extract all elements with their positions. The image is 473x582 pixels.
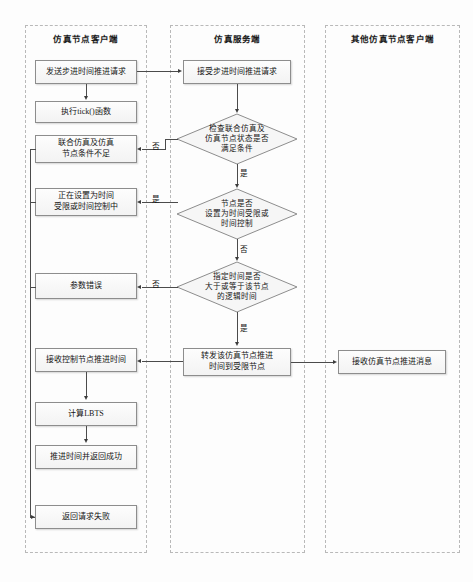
edge-d2-d3: [237, 239, 238, 258]
node-send-step-request[interactable]: 发送步进时间推进请求: [35, 60, 137, 84]
edge-d1-no-arrowhead: [137, 147, 141, 151]
edge-d2-yes-arrowhead: [137, 200, 141, 204]
edge-collector-trunk: [30, 149, 31, 517]
node-forward-advance-to-constrained-line2: 时间到受限节点: [209, 362, 265, 373]
edge-n6-n7: [86, 372, 87, 397]
edge-s1-d1-arrowhead: [235, 109, 239, 113]
edge-d3-no-seg: [142, 287, 178, 288]
edge-d2-yes-seg: [142, 202, 178, 203]
edge-label-d1-no: 否: [152, 140, 160, 151]
edge-d3-no-arrowhead: [137, 285, 141, 289]
edge-label-d3-yes: 是: [240, 322, 248, 333]
edge-s2-o1: [291, 362, 333, 363]
lane-title-client: 仿真节点客户端: [25, 32, 147, 44]
edge-s2-n6-arrowhead: [137, 359, 141, 363]
decision-time-ge-logical-time-shape: [177, 262, 297, 312]
lane-other-client: [325, 25, 460, 553]
node-forward-advance-to-constrained-line1: 转发该仿真节点推进: [201, 351, 273, 362]
node-forward-advance-to-constrained[interactable]: 转发该仿真节点推进 时间到受限节点: [183, 348, 291, 376]
node-receive-control-node-time[interactable]: 接收控制节点推进时间: [35, 348, 137, 372]
edge-collector-to-n9-arrowhead: [31, 515, 35, 519]
edge-n7-n8-arrowhead: [84, 439, 88, 443]
node-compute-lbts[interactable]: 计算LBTS: [35, 402, 137, 426]
node-setting-time-regulating-line1: 正在设置为时间: [58, 191, 114, 202]
edge-d3-s2-arrowhead: [235, 342, 239, 346]
node-receive-advance-message[interactable]: 接收仿真节点推进消息: [338, 350, 446, 374]
edge-n1-s1: [137, 71, 178, 72]
edge-s1-d1: [237, 84, 238, 110]
node-setting-time-regulating-line2: 受限或时间控制中: [54, 202, 118, 213]
node-exec-tick[interactable]: 执行tick()函数: [35, 101, 137, 123]
edge-label-d2-yes: 是: [152, 193, 160, 204]
edge-n1-s1-arrowhead: [178, 69, 182, 73]
edge-d1-d2-arrowhead: [235, 184, 239, 188]
edge-n7-n8: [86, 426, 87, 440]
node-condition-insufficient-line2: 节点条件不足: [62, 149, 110, 160]
edge-n1-n2-arrowhead: [84, 96, 88, 100]
edge-n6-n7-arrowhead: [84, 396, 88, 400]
node-condition-insufficient[interactable]: 联合仿真及仿真 节点条件不足: [35, 135, 137, 163]
node-param-error[interactable]: 参数错误: [35, 273, 137, 299]
decision-node-time-regulating[interactable]: 节点是否 设置为时间受限或 时间控制: [177, 189, 297, 239]
node-return-request-failed[interactable]: 返回请求失败: [35, 505, 137, 529]
decision-check-federation-state-shape: [177, 114, 297, 164]
edge-label-d2-no: 否: [240, 243, 248, 254]
decision-check-federation-state[interactable]: 检查联合仿真及 仿真节点状态是否 满足条件: [177, 114, 297, 164]
decision-node-time-regulating-shape: [177, 189, 297, 239]
node-setting-time-regulating[interactable]: 正在设置为时间 受限或时间控制中: [35, 188, 137, 216]
node-advance-time-success[interactable]: 推进时间并返回成功: [35, 445, 137, 469]
edge-d1-no-seg1: [165, 139, 178, 140]
edge-s2-o1-arrowhead: [333, 360, 337, 364]
edge-label-d1-yes: 是: [240, 167, 248, 178]
edge-d2-d3-arrowhead: [235, 257, 239, 261]
edge-label-d3-no: 否: [152, 278, 160, 289]
node-condition-insufficient-line1: 联合仿真及仿真: [58, 138, 114, 149]
lane-title-other-client: 其他仿真节点客户端: [325, 32, 460, 44]
edge-d1-d2: [237, 164, 238, 185]
lane-title-server: 仿真服务端: [170, 32, 305, 44]
edge-s2-n6: [142, 361, 183, 362]
edge-d3-s2: [237, 312, 238, 343]
flowchart-canvas: 仿真节点客户端 仿真服务端 其他仿真节点客户端 发送步进时间推进请求 执行tic…: [0, 0, 473, 582]
decision-time-ge-logical-time[interactable]: 指定时间是否 大于或等于该节点 的逻辑时间: [177, 262, 297, 312]
node-accept-step-request[interactable]: 接受步进时间推进请求: [183, 60, 291, 84]
